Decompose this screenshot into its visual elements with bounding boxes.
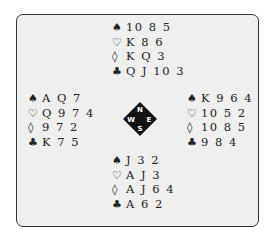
compass-east: E: [147, 116, 152, 124]
south-hand: ♠J 3 2 ♡A J 3 ◊A J 6 4 ♣A 6 2: [112, 153, 175, 211]
north-hearts: ♡K 8 6: [112, 35, 185, 50]
compass-north: N: [137, 106, 143, 114]
north-diamonds: ◊K Q 3: [112, 49, 185, 64]
club-icon: ♣: [187, 136, 201, 151]
west-spades: ♠A Q 7: [28, 91, 95, 106]
east-hand: ♠K 9 6 4 ♡10 5 2 ◊10 8 5 ♣9 8 4: [187, 91, 253, 149]
heart-icon: ♡: [112, 36, 126, 51]
south-spades: ♠J 3 2: [112, 153, 175, 168]
diamond-icon: ◊: [28, 121, 42, 136]
compass-icon: N W E S: [123, 102, 157, 136]
north-clubs: ♣Q J 10 3: [112, 64, 185, 79]
east-clubs: ♣9 8 4: [187, 135, 253, 150]
south-clubs: ♣A 6 2: [112, 197, 175, 212]
heart-icon: ♡: [112, 169, 126, 184]
heart-icon: ♡: [187, 107, 201, 122]
diamond-icon: ◊: [112, 50, 126, 65]
spade-icon: ♠: [112, 21, 126, 36]
diamond-icon: ◊: [187, 121, 201, 136]
south-hearts: ♡A J 3: [112, 168, 175, 183]
club-icon: ♣: [112, 198, 126, 213]
club-icon: ♣: [28, 136, 42, 151]
spade-icon: ♠: [112, 154, 126, 169]
compass-south: S: [137, 125, 142, 133]
spade-icon: ♠: [187, 92, 201, 107]
west-hand: ♠A Q 7 ♡Q 9 7 4 ◊9 7 2 ♣K 7 5: [28, 91, 95, 149]
heart-icon: ♡: [28, 107, 42, 122]
north-spades: ♠10 8 5: [112, 20, 185, 35]
west-hearts: ♡Q 9 7 4: [28, 106, 95, 121]
east-diamonds: ◊10 8 5: [187, 120, 253, 135]
club-icon: ♣: [112, 65, 126, 80]
west-clubs: ♣K 7 5: [28, 135, 95, 150]
east-spades: ♠K 9 6 4: [187, 91, 253, 106]
diamond-icon: ◊: [112, 183, 126, 198]
west-diamonds: ◊9 7 2: [28, 120, 95, 135]
spade-icon: ♠: [28, 92, 42, 107]
north-hand: ♠10 8 5 ♡K 8 6 ◊K Q 3 ♣Q J 10 3: [112, 20, 185, 78]
east-hearts: ♡10 5 2: [187, 106, 253, 121]
south-diamonds: ◊A J 6 4: [112, 182, 175, 197]
compass-west: W: [127, 116, 135, 124]
